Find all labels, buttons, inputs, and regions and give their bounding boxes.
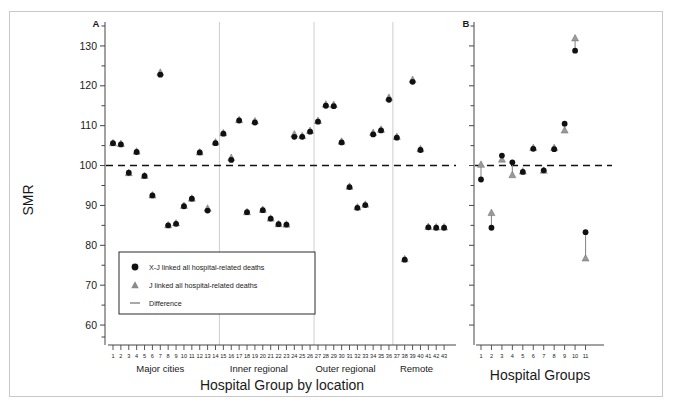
y-tick-label: 80 (85, 239, 97, 251)
marker-xj-linked (441, 225, 447, 231)
marker-xj-linked (499, 153, 505, 159)
x-tick-label-a: 27 (315, 353, 321, 359)
x-tick-label-a: 24 (291, 353, 297, 359)
marker-xj-linked (370, 132, 376, 138)
marker-xj-linked (228, 157, 234, 163)
x-tick-label-b: 6 (532, 353, 535, 359)
x-tick-label-a: 36 (386, 353, 392, 359)
figure-root: 13012011010090807060SMRAB123456789101112… (0, 0, 674, 409)
x-tick-label-a: 5 (143, 353, 146, 359)
legend: X-J linked all hospital-related deathsJ … (119, 252, 315, 314)
marker-xj-linked (433, 225, 439, 231)
x-tick-label-a: 39 (409, 353, 415, 359)
group-label-0: Major cities (136, 363, 184, 374)
legend-label-1: J linked all hospital-related deaths (149, 281, 258, 290)
x-tick-label-a: 43 (441, 353, 447, 359)
marker-xj-linked (572, 48, 578, 54)
group-label-3: Remote (400, 363, 433, 374)
marker-xj-linked (110, 140, 116, 146)
x-tick-label-a: 9 (175, 353, 178, 359)
marker-j-linked (509, 171, 516, 177)
x-tick-label-a: 14 (212, 353, 218, 359)
x-tick-label-a: 35 (378, 353, 384, 359)
marker-xj-linked (339, 140, 345, 146)
smr-scatter-plot: 13012011010090807060SMRAB123456789101112… (0, 0, 674, 409)
x-tick-label-a: 10 (181, 353, 187, 359)
x-tick-label-a: 22 (275, 353, 281, 359)
x-tick-label-a: 37 (394, 353, 400, 359)
marker-xj-linked (197, 149, 203, 155)
marker-xj-linked (244, 209, 250, 215)
marker-xj-linked (205, 208, 211, 214)
marker-xj-linked (323, 103, 329, 109)
marker-xj-linked (236, 118, 242, 124)
y-tick-label: 60 (85, 319, 97, 331)
x-tick-label-a: 33 (362, 353, 368, 359)
x-axis-panel-a: 1234567891011121314151617181920212223242… (108, 345, 456, 359)
x-tick-label-a: 3 (127, 353, 130, 359)
x-tick-label-a: 40 (417, 353, 423, 359)
y-tick-label: 110 (80, 119, 97, 131)
x-tick-label-a: 25 (299, 353, 305, 359)
marker-xj-linked (173, 221, 179, 227)
x-tick-label-a: 8 (167, 353, 170, 359)
legend-label-2: Difference (149, 299, 182, 308)
marker-xj-linked (142, 173, 148, 179)
marker-xj-linked (541, 167, 547, 173)
data-points-panel-b (478, 34, 590, 261)
x-tick-label-a: 32 (354, 353, 360, 359)
x-tick-label-a: 16 (228, 353, 234, 359)
marker-xj-linked (425, 224, 431, 230)
y-axis-panel-a: 13012011010090807060 (79, 22, 105, 345)
x-tick-label-a: 17 (236, 353, 242, 359)
marker-xj-linked (291, 134, 297, 140)
y-axis-title: SMR (20, 184, 36, 215)
y-tick-label: 100 (79, 159, 97, 171)
x-tick-label-a: 20 (260, 353, 266, 359)
marker-xj-linked (118, 142, 124, 148)
marker-xj-linked (268, 216, 274, 222)
legend-marker-circle (132, 264, 139, 271)
x-tick-label-b: 3 (500, 353, 503, 359)
marker-j-linked (478, 161, 485, 167)
x-tick-label-a: 26 (307, 353, 313, 359)
x-tick-label-b: 7 (542, 353, 545, 359)
group-label-1: Inner regional (230, 363, 288, 374)
marker-xj-linked (150, 193, 156, 199)
x-tick-label-a: 2 (119, 353, 122, 359)
marker-xj-linked (134, 149, 140, 155)
x-tick-label-a: 29 (331, 353, 337, 359)
x-tick-label-b: 8 (553, 353, 556, 359)
marker-xj-linked (520, 169, 526, 175)
x-tick-label-a: 34 (370, 353, 376, 359)
marker-xj-linked (394, 135, 400, 141)
x-tick-label-a: 6 (151, 353, 154, 359)
x-tick-label-a: 11 (189, 353, 195, 359)
x-tick-label-a: 15 (220, 353, 226, 359)
group-label-2: Outer regional (315, 363, 375, 374)
marker-xj-linked (354, 205, 360, 211)
marker-xj-linked (478, 177, 484, 183)
marker-xj-linked (315, 119, 321, 125)
x-tick-label-a: 19 (252, 353, 258, 359)
y-tick-label: 120 (79, 79, 97, 91)
x-tick-label-b: 1 (479, 353, 482, 359)
marker-xj-linked (252, 120, 258, 126)
marker-xj-linked (276, 221, 282, 227)
x-tick-label-a: 30 (339, 353, 345, 359)
marker-xj-linked (418, 147, 424, 153)
marker-xj-linked (331, 103, 337, 109)
x-tick-label-b: 2 (490, 353, 493, 359)
x-tick-label-a: 7 (159, 353, 162, 359)
marker-xj-linked (126, 170, 132, 176)
x-axis-title-a: Hospital Group by location (200, 377, 364, 393)
legend-label-0: X-J linked all hospital-related deaths (149, 263, 265, 272)
marker-j-linked (488, 209, 495, 215)
marker-j-linked (561, 127, 568, 133)
marker-xj-linked (410, 79, 416, 85)
marker-xj-linked (307, 129, 313, 135)
marker-xj-linked (165, 222, 171, 228)
x-tick-label-a: 13 (204, 353, 210, 359)
marker-xj-linked (299, 134, 305, 140)
marker-xj-linked (402, 257, 408, 263)
